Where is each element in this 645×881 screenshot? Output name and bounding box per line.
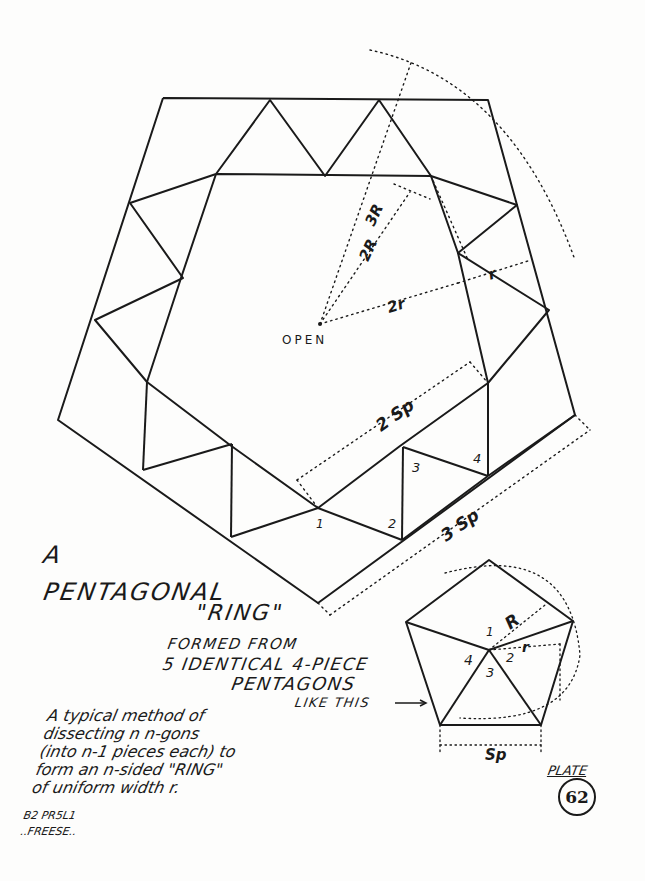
credit: B2 PR5L1 ..FREESE.. <box>19 808 80 840</box>
piece-1: 1 <box>316 517 324 531</box>
description: A typical method of dissecting n n-gons … <box>30 707 245 797</box>
small-piece-4: 4 <box>464 652 473 668</box>
center-point <box>318 322 322 326</box>
description-line: form an n-sided "RING" <box>34 761 233 779</box>
plate-label: PLATE <box>547 763 589 778</box>
small-piece-3: 3 <box>486 665 494 680</box>
label-2r: 2r <box>385 294 409 317</box>
piece-3: 3 <box>412 460 420 475</box>
title-line-3: "RING" <box>194 602 285 624</box>
arrow-icon <box>395 700 426 706</box>
formed-line-1: FORMED FROM <box>166 635 299 653</box>
description-line: (into n-1 pieces each) to <box>38 743 237 761</box>
credit-author: ..FREESE.. <box>19 824 78 840</box>
description-line: of uniform width r. <box>30 779 229 797</box>
label-2R: 2R <box>355 236 381 264</box>
label-small-r: r <box>522 639 530 655</box>
plate-number-badge: 62 <box>558 778 596 816</box>
formed-line-4: LIKE THIS <box>294 695 372 710</box>
piece-4: 4 <box>473 451 481 466</box>
left-zigzag <box>95 174 216 382</box>
small-pentagon-labels: R r Sp 1 2 3 4 <box>464 609 530 764</box>
piece-2: 2 <box>388 516 396 531</box>
formed-line-3: PENTAGONS <box>230 673 358 694</box>
credit-code: B2 PR5L1 <box>22 808 81 824</box>
label-3R: 3R <box>361 201 387 229</box>
label-r: r <box>486 264 500 284</box>
label-2Sp: 2 Sp <box>372 395 418 436</box>
label-R: R <box>501 609 523 633</box>
description-line: dissecting n n-gons <box>42 725 241 743</box>
formed-line-2: 5 IDENTICAL 4-PIECE <box>161 654 370 674</box>
small-piece-2: 2 <box>506 650 514 665</box>
label-Sp: Sp <box>485 746 507 764</box>
ring-labels: 3R 2R 2r r 2 Sp 3 Sp 1 2 3 4 <box>316 201 500 545</box>
description-line: A typical method of <box>46 707 245 725</box>
small-piece-1: 1 <box>486 625 494 639</box>
small-pentagon <box>406 560 573 725</box>
open-label: OPEN <box>282 334 327 346</box>
top-zigzag <box>216 100 431 176</box>
